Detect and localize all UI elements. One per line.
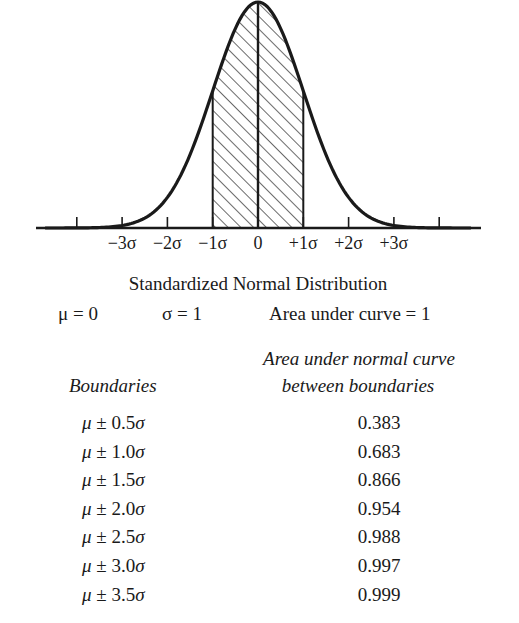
boundary-cell: μ ± 0.5σ <box>82 412 145 434</box>
area-cell: 0.988 <box>358 526 401 548</box>
area-cell: 0.997 <box>358 555 401 577</box>
boundary-cell: μ ± 3.0σ <box>82 555 145 577</box>
area-cell: 0.954 <box>358 498 401 520</box>
total-area: Area under curve = 1 <box>269 303 431 325</box>
area-cell: 0.999 <box>358 584 401 606</box>
x-tick-label: +3σ <box>379 233 408 253</box>
x-tick-label: −3σ <box>108 233 137 253</box>
normal-curve-chart: −3σ−2σ−1σ0+1σ+2σ+3σ <box>0 0 519 262</box>
area-column-header-line2: between boundaries <box>282 375 435 397</box>
x-tick-label: −2σ <box>153 233 182 253</box>
boundary-cell: μ ± 1.5σ <box>82 469 145 491</box>
area-cell: 0.683 <box>358 441 401 463</box>
mean-param: μ = 0 <box>58 303 98 325</box>
boundary-cell: μ ± 2.0σ <box>82 498 145 520</box>
area-cell: 0.866 <box>358 469 401 491</box>
chart-title: Standardized Normal Distribution <box>129 273 388 295</box>
x-axis-tick-labels: −3σ−2σ−1σ0+1σ+2σ+3σ <box>108 233 409 253</box>
x-tick-label: +1σ <box>289 233 318 253</box>
boundary-cell: μ ± 3.5σ <box>82 584 145 606</box>
boundaries-column-header: Boundaries <box>69 375 157 397</box>
area-column-header-line1: Area under normal curve <box>263 348 455 370</box>
x-tick-label: +2σ <box>334 233 363 253</box>
boundary-cell: μ ± 1.0σ <box>82 441 145 463</box>
boundary-cell: μ ± 2.5σ <box>82 526 145 548</box>
area-cell: 0.383 <box>358 412 401 434</box>
x-tick-label: −1σ <box>198 233 227 253</box>
x-tick-label: 0 <box>254 233 263 253</box>
sigma-param: σ = 1 <box>162 303 202 325</box>
